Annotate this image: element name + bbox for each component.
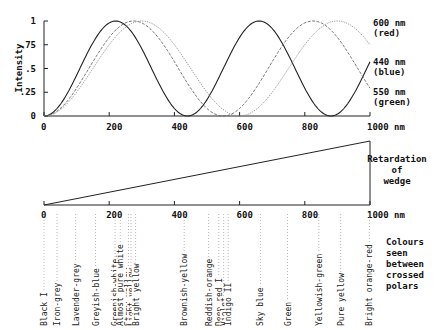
- wedge-x-tick-label: 1000 nm: [367, 210, 406, 220]
- x-tick-label: 200: [106, 122, 122, 132]
- legend-label: 440 nm: [373, 57, 406, 67]
- x-tick-label: 600: [237, 122, 253, 132]
- legend-label: 600 nm: [373, 18, 406, 28]
- colour-item: Reddish-orange: [205, 214, 214, 326]
- colour-label: Green: [284, 302, 293, 326]
- colour-item: Bright yellow: [132, 214, 141, 326]
- wedge-title-line3: wedge: [383, 176, 411, 186]
- x-tick-label: 1000 nm: [367, 122, 406, 132]
- y-tick-label: 1: [31, 16, 36, 26]
- legend-label: 550 nm: [373, 87, 406, 97]
- wedge-x-tick-label: 800: [302, 210, 318, 220]
- colour-item: Lavender-grey: [72, 214, 81, 326]
- colour-label: Iron-grey: [53, 282, 62, 326]
- y-tick-label: .5: [25, 64, 36, 74]
- colour-scale: Black IIron-greyLavender-greyGreyish-blu…: [40, 214, 374, 326]
- wedge-plot: 02004006008001000 nm Retardation of wedg…: [41, 141, 427, 220]
- interference-figure: Intensity 0.25.5.751 02004006008001000 n…: [0, 0, 442, 330]
- caption-line4: crossed: [386, 270, 424, 280]
- colour-label: Reddish-orange: [205, 258, 214, 326]
- colour-label: Yellowish-green: [315, 254, 324, 326]
- y-axis-label: Intensity: [14, 43, 24, 92]
- colour-item: Brownish-yellow: [180, 214, 189, 326]
- colour-item: Sky blue: [256, 214, 265, 326]
- y-tick-label: .75: [20, 40, 36, 50]
- intensity-plot: Intensity 0.25.5.751 02004006008001000 n…: [14, 16, 411, 132]
- caption-line2: seen: [386, 248, 408, 258]
- y-tick-label: 0: [31, 111, 36, 121]
- colour-item: Bright orange-red: [365, 214, 374, 326]
- x-tick-label: 800: [302, 122, 318, 132]
- caption-line1: Colours: [386, 237, 424, 247]
- colour-label: Brownish-yellow: [180, 254, 189, 326]
- colour-label: Greyish-blue: [92, 268, 101, 326]
- colour-item: Green: [284, 214, 293, 326]
- series-line-600: [44, 21, 370, 116]
- colour-label: Sky blue: [256, 287, 265, 326]
- colour-item: Black I: [40, 214, 49, 326]
- wedge-x-tick-label: 600: [237, 210, 253, 220]
- colour-label: Pure yellow: [337, 273, 346, 326]
- colour-item: Indigo II: [224, 214, 233, 326]
- legend-sublabel: (red): [373, 28, 400, 38]
- x-tick-label: 0: [41, 122, 46, 132]
- colour-label: Indigo II: [224, 282, 233, 326]
- caption-line5: polars: [386, 281, 419, 291]
- wedge-x-tick-label: 400: [171, 210, 187, 220]
- colour-label: Bright yellow: [132, 263, 141, 326]
- wedge-outline: [44, 141, 370, 205]
- legend-sublabel: (blue): [373, 67, 406, 77]
- colour-label: Bright orange-red: [365, 244, 374, 326]
- y-tick-label: .25: [20, 87, 36, 97]
- colour-item: Yellowish-green: [315, 214, 324, 326]
- colour-item: Iron-grey: [53, 214, 62, 326]
- colour-label: Lavender-grey: [72, 263, 81, 326]
- colour-item: Pure yellow: [337, 214, 346, 326]
- colour-label: Black I: [40, 292, 49, 326]
- caption-line3: between: [386, 259, 424, 269]
- colour-item: Greyish-blue: [92, 214, 101, 326]
- wedge-title-line1: Retardation: [367, 154, 427, 164]
- x-tick-label: 400: [171, 122, 187, 132]
- wedge-title-line2: of: [392, 165, 403, 175]
- legend-sublabel: (green): [373, 97, 411, 107]
- colours-caption: Colours seen between crossed polars: [386, 237, 424, 291]
